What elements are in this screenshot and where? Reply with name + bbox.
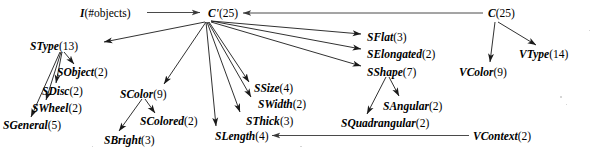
scan-speck [300, 146, 302, 147]
node-label: SWheel [32, 102, 68, 114]
graph-node-slength: SLength(4) [215, 131, 269, 143]
node-label: SWidth [258, 98, 293, 110]
graph-node-selongated: SElongated(2) [367, 49, 435, 61]
graph-node-vcontext: VContext(2) [473, 131, 531, 143]
graph-node-swidth: SWidth(2) [258, 99, 306, 111]
node-label: SType [30, 40, 59, 52]
node-count: (14) [549, 48, 568, 60]
node-label: SDisc [42, 85, 69, 97]
graph-node-c: C(25) [488, 8, 515, 20]
node-count: (2) [69, 85, 82, 97]
graph-node-sobject: SObject(2) [57, 67, 107, 79]
node-label: C [488, 7, 496, 19]
node-count: (3) [280, 115, 293, 127]
node-count: (2) [94, 66, 107, 78]
graph-node-scolored: SColored(2) [140, 116, 198, 128]
node-count: (2) [184, 115, 197, 127]
node-label: SQuadrangular [341, 117, 416, 129]
graph-node-sangular: SAngular(2) [383, 101, 442, 113]
node-count: (9) [153, 88, 166, 100]
node-label: SFlat [367, 31, 393, 43]
edge-stype-to-sobject [64, 52, 74, 64]
node-count: (4) [280, 82, 293, 94]
node-count: (2) [416, 117, 429, 129]
node-count: (2) [293, 98, 306, 110]
node-count: (#objects) [84, 7, 130, 19]
node-count: (9) [494, 66, 507, 78]
graph-node-sdisc: SDisc(2) [42, 86, 83, 98]
node-count: (2) [68, 102, 81, 114]
node-label: SBright [104, 134, 141, 146]
node-label: SGeneral [3, 119, 48, 131]
node-label: SElongated [367, 48, 422, 60]
node-count: (25) [496, 7, 515, 19]
graph-node-stype: SType(13) [30, 41, 78, 53]
scan-speck [560, 96, 562, 98]
edge-scolor-to-scolored [145, 99, 155, 113]
edge-scolor-to-sbright [119, 99, 142, 131]
graph-node-squadrangular: SQuadrangular(2) [341, 118, 429, 130]
node-label: VColor [459, 66, 494, 78]
graph-node-vcolor: VColor(9) [459, 67, 507, 79]
graph-node-sthick: SThick(3) [246, 116, 293, 128]
edge-cprime-to-swidth [208, 22, 251, 97]
node-label: SColor [120, 88, 153, 100]
node-count: (7) [403, 66, 416, 78]
node-label: SShape [367, 66, 403, 78]
node-count: (2) [422, 48, 435, 60]
node-count: (3) [141, 134, 154, 146]
node-count: (13) [59, 40, 78, 52]
edge-c-to-vcolor [490, 22, 495, 62]
scan-speck [589, 30, 590, 31]
node-count: (5) [48, 119, 61, 131]
graph-node-scolor: SColor(9) [120, 89, 167, 101]
graph-node-sbright: SBright(3) [104, 135, 155, 147]
node-count: (4) [255, 130, 268, 142]
node-label: SLength [215, 130, 255, 142]
node-label: C' [208, 7, 219, 19]
graph-node-i: I(#objects) [80, 8, 130, 20]
node-label: SObject [57, 66, 94, 78]
node-count: (2) [518, 130, 531, 142]
edge-cprime-to-slength [206, 22, 216, 126]
graph-node-swheel: SWheel(2) [32, 103, 82, 115]
node-label: VType [519, 48, 549, 60]
edge-sshape-to-sangular [389, 77, 399, 96]
edge-cprime-to-selongated [211, 21, 361, 49]
node-label: VContext [473, 130, 518, 142]
node-label: SAngular [383, 100, 429, 112]
graph-node-sshape: SShape(7) [367, 67, 416, 79]
scan-speck [92, 146, 93, 147]
node-count: (2) [429, 100, 442, 112]
node-label: SSize [254, 82, 280, 94]
node-label: SThick [246, 115, 280, 127]
edge-cprime-to-sthick [207, 22, 240, 112]
graph-node-cprime: C'(25) [208, 8, 238, 20]
graph-node-sgeneral: SGeneral(5) [3, 120, 61, 132]
edge-cprime-to-sflat [211, 21, 361, 34]
graph-node-vtype: VType(14) [519, 49, 568, 61]
scan-speck [566, 104, 567, 105]
graph-node-ssize: SSize(4) [254, 83, 293, 95]
node-count: (3) [393, 31, 406, 43]
edge-c-to-vtype [498, 22, 536, 45]
graph-node-sflat: SFlat(3) [367, 32, 407, 44]
diagram-canvas: I(#objects)C'(25)C(25)SType(13)SObject(2… [0, 0, 605, 151]
edge-cprime-to-stype [104, 22, 205, 42]
node-count: (25) [219, 7, 238, 19]
edge-cprime-to-scolor [164, 22, 206, 84]
node-label: SColored [140, 115, 184, 127]
